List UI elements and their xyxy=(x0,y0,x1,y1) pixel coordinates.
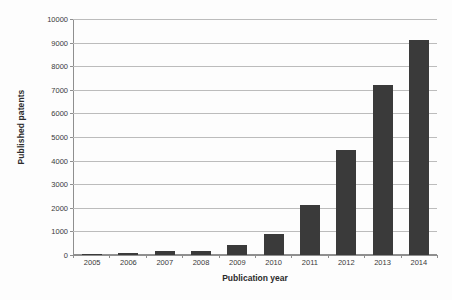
plot-area xyxy=(73,19,437,255)
y-axis-tick-label: 4000 xyxy=(28,156,68,165)
y-axis-title: Published patents xyxy=(14,0,28,254)
y-axis-tick-label: 6000 xyxy=(28,109,68,118)
x-axis-tick-label: 2014 xyxy=(401,258,437,267)
bar-slot xyxy=(401,19,437,255)
y-axis-tick-label: 8000 xyxy=(28,62,68,71)
y-axis-tick-label: 7000 xyxy=(28,85,68,94)
y-axis-tick-label: 0 xyxy=(28,251,68,260)
x-axis-tick-label: 2013 xyxy=(364,258,400,267)
y-axis-tick-mark xyxy=(70,90,73,91)
x-axis-tick-mark xyxy=(364,255,365,258)
bar-slot xyxy=(110,19,146,255)
y-axis-tick-mark xyxy=(70,19,73,20)
bar-slot xyxy=(183,19,219,255)
bar-slot xyxy=(292,19,328,255)
bar-slot xyxy=(364,19,400,255)
y-axis-tick-label: 5000 xyxy=(28,133,68,142)
bar-2012 xyxy=(336,150,356,255)
bar-slot xyxy=(147,19,183,255)
x-axis-tick-mark xyxy=(437,255,438,258)
x-axis-tick-label: 2009 xyxy=(219,258,255,267)
y-axis-tick-mark xyxy=(70,66,73,67)
x-axis-tick-mark xyxy=(328,255,329,258)
y-axis-tick-label: 10000 xyxy=(28,15,68,24)
x-axis-tick-mark xyxy=(182,255,183,258)
bar-2013 xyxy=(373,85,393,255)
bar-slot xyxy=(328,19,364,255)
y-axis-tick-label: 1000 xyxy=(28,227,68,236)
x-axis-tick-mark xyxy=(146,255,147,258)
x-axis-tick-label: 2006 xyxy=(110,258,146,267)
y-axis-tick-label: 3000 xyxy=(28,180,68,189)
bar-2011 xyxy=(300,205,320,255)
x-axis-tick-label: 2008 xyxy=(183,258,219,267)
x-axis-tick-label: 2010 xyxy=(255,258,291,267)
y-axis-tick-mark xyxy=(70,231,73,232)
bar-slot xyxy=(74,19,110,255)
bar-2008 xyxy=(191,251,211,255)
y-axis-tick-mark xyxy=(70,137,73,138)
y-axis-tick-mark xyxy=(70,161,73,162)
bars-group xyxy=(74,19,437,255)
y-axis-title-text: Published patents xyxy=(16,90,26,165)
bar-2009 xyxy=(227,245,247,255)
y-axis-tick-label: 9000 xyxy=(28,38,68,47)
x-axis-tick-label: 2012 xyxy=(328,258,364,267)
y-axis-tick-mark xyxy=(70,184,73,185)
x-axis-tick-label: 2005 xyxy=(74,258,110,267)
bar-2014 xyxy=(409,40,429,255)
bar-2010 xyxy=(264,234,284,255)
x-axis-tick-labels: 2005200620072008200920102011201220132014 xyxy=(74,258,437,267)
x-axis-title: Publication year xyxy=(73,273,437,283)
bar-2007 xyxy=(155,251,175,255)
bar-2005 xyxy=(82,254,102,255)
x-axis-tick-mark xyxy=(219,255,220,258)
y-axis-tick-mark xyxy=(70,113,73,114)
x-axis-tick-mark xyxy=(291,255,292,258)
y-axis-tick-mark xyxy=(70,43,73,44)
x-axis-tick-mark xyxy=(73,255,74,258)
x-axis-tick-mark xyxy=(109,255,110,258)
bar-chart-figure: Published patents 0100020003000400050006… xyxy=(0,0,452,300)
y-axis-tick-mark xyxy=(70,208,73,209)
x-axis-tick-label: 2007 xyxy=(147,258,183,267)
y-axis-tick-label: 2000 xyxy=(28,203,68,212)
bar-2006 xyxy=(118,253,138,255)
x-axis-tick-label: 2011 xyxy=(292,258,328,267)
bar-slot xyxy=(255,19,291,255)
x-axis-tick-mark xyxy=(401,255,402,258)
x-axis-tick-mark xyxy=(255,255,256,258)
bar-slot xyxy=(219,19,255,255)
